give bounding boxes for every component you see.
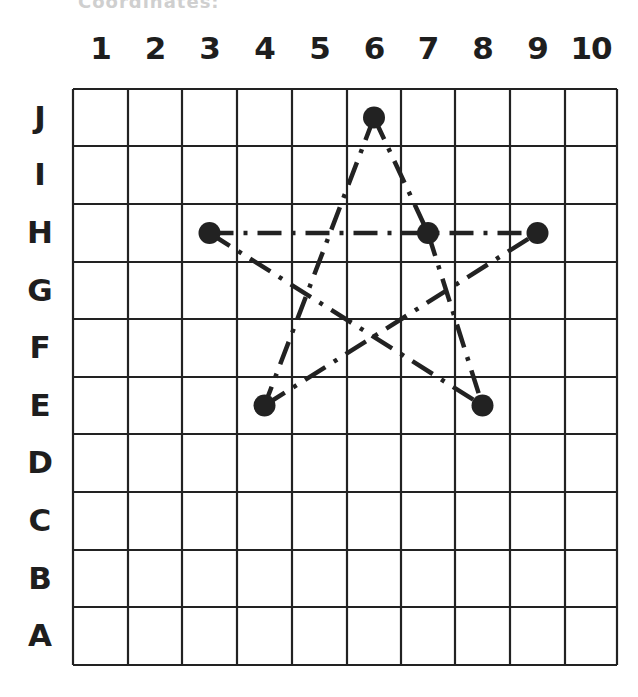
coordinate-grid — [0, 0, 638, 697]
point-E8 — [472, 395, 494, 417]
grid-lines — [73, 89, 617, 665]
point-E4 — [254, 395, 276, 417]
point-H3 — [199, 222, 221, 244]
point-J6 — [363, 107, 385, 129]
point-H9 — [527, 222, 549, 244]
point-H7 — [417, 222, 439, 244]
